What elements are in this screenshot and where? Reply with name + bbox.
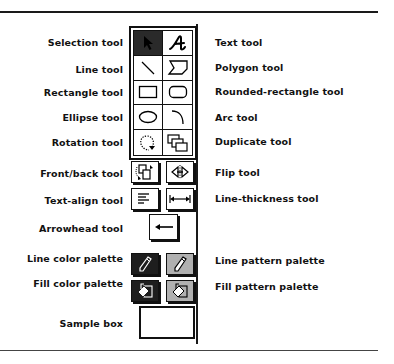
line-thickness-icon	[168, 192, 192, 206]
label-line-pattern-palette: Line pattern palette	[215, 255, 325, 266]
polygon-tool-button[interactable]	[163, 56, 192, 81]
duplicate-icon	[166, 133, 190, 153]
label-front-back-tool: Front/back tool	[40, 168, 123, 179]
arrow-left-icon	[153, 221, 175, 233]
label-arc-tool: Arc tool	[215, 112, 258, 123]
label-text-tool: Text tool	[215, 37, 262, 48]
fill-color-palette-button[interactable]	[131, 280, 159, 302]
arrow-pointer-icon	[141, 35, 155, 51]
label-fill-color-palette: Fill color palette	[33, 278, 123, 289]
rectangle-tool-button[interactable]	[134, 81, 163, 106]
pencil-icon	[171, 255, 189, 273]
label-text-align-tool: Text-align tool	[45, 195, 123, 206]
ellipse-tool-button[interactable]	[134, 105, 163, 130]
label-rotation-tool: Rotation tool	[52, 137, 123, 148]
text-tool-button[interactable]	[163, 31, 192, 56]
flip-tool-button[interactable]	[166, 161, 194, 183]
arrowhead-tool-button[interactable]	[149, 214, 178, 240]
sample-box	[139, 306, 195, 339]
fill-pattern-palette-button[interactable]	[166, 280, 194, 302]
duplicate-tool-button[interactable]	[163, 130, 192, 155]
paint-bucket-icon	[135, 282, 155, 300]
text-align-left-icon	[135, 191, 155, 207]
bottom-rule	[0, 350, 378, 351]
label-line-tool: Line tool	[75, 64, 123, 75]
paint-bucket-icon	[170, 282, 190, 300]
label-rounded-rectangle-tool: Rounded-rectangle tool	[215, 86, 344, 97]
line-thickness-tool-button[interactable]	[166, 188, 194, 210]
line-color-palette-button[interactable]	[131, 253, 159, 275]
script-a-icon	[168, 34, 188, 52]
rounded-rectangle-tool-button[interactable]	[163, 81, 192, 106]
ellipse-icon	[137, 108, 159, 126]
label-duplicate-tool: Duplicate tool	[215, 136, 292, 147]
rotate-icon	[137, 133, 159, 153]
arc-icon	[168, 108, 188, 126]
flip-icon	[169, 164, 191, 180]
text-align-tool-button[interactable]	[131, 188, 159, 210]
pencil-icon	[136, 255, 154, 273]
front-back-tool-button[interactable]	[131, 161, 159, 183]
arc-tool-button[interactable]	[163, 105, 192, 130]
label-sample-box: Sample box	[60, 318, 123, 329]
label-line-color-palette: Line color palette	[27, 253, 123, 264]
line-pattern-palette-button[interactable]	[166, 253, 194, 275]
front-back-icon	[134, 163, 156, 181]
label-ellipse-tool: Ellipse tool	[62, 112, 123, 123]
tool-palette	[129, 26, 197, 160]
label-flip-tool: Flip tool	[215, 167, 260, 178]
label-fill-pattern-palette: Fill pattern palette	[215, 281, 319, 292]
top-rule	[0, 11, 378, 13]
line-tool-button[interactable]	[134, 56, 163, 81]
label-arrowhead-tool: Arrowhead tool	[39, 223, 123, 234]
selection-tool-button[interactable]	[134, 31, 163, 56]
label-selection-tool: Selection tool	[48, 37, 123, 48]
label-line-thickness-tool: Line-thickness tool	[215, 193, 319, 204]
polygon-icon	[167, 59, 189, 77]
diagonal-line-icon	[139, 59, 157, 77]
label-rectangle-tool: Rectangle tool	[44, 87, 123, 98]
rotation-tool-button[interactable]	[134, 130, 163, 155]
label-polygon-tool: Polygon tool	[215, 62, 283, 73]
rounded-rectangle-icon	[167, 83, 189, 101]
rectangle-icon	[137, 83, 159, 101]
